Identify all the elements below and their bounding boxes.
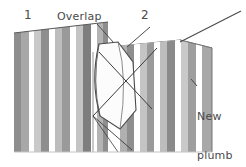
label-new-plumb-line-2: plumb — [197, 149, 233, 162]
label-strip-1: 1 — [24, 10, 32, 21]
new-plumb-line-indicator — [180, 11, 241, 42]
wallpaper-overlap-diagram: 1 2 Overlap New plumb line — [0, 0, 246, 167]
label-new-plumb-line-1: New — [197, 110, 233, 123]
label-new-plumb-line: New plumb line — [197, 84, 233, 167]
label-overlap: Overlap — [57, 11, 102, 22]
label-strip-2: 2 — [141, 10, 149, 21]
